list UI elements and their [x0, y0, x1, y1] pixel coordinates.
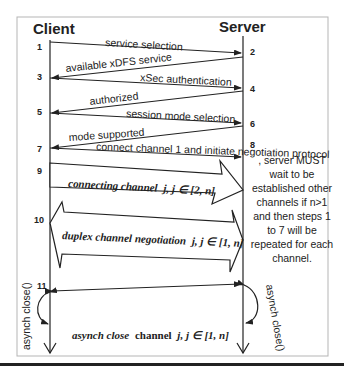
step-11: 11: [37, 281, 47, 291]
step-9: 9: [37, 166, 42, 176]
step-6: 6: [250, 119, 255, 129]
client-close-curve: [38, 292, 50, 324]
note-text: , server MUST wait to be established oth…: [251, 154, 333, 264]
svg-text:to 7 will be: to 7 will be: [267, 224, 317, 236]
message-label-3: xSec authentication: [140, 71, 232, 88]
step-5: 5: [37, 107, 42, 117]
message-label-5: session mode selection: [126, 107, 236, 125]
step-3: 3: [37, 72, 42, 82]
svg-text:and then steps 1: and then steps 1: [253, 210, 331, 222]
svg-text:wait to be: wait to be: [269, 168, 315, 180]
svg-text:established other: established other: [252, 182, 332, 194]
close-arrow: [52, 284, 241, 291]
step-2: 2: [250, 47, 255, 57]
participant-client: Client: [33, 20, 75, 37]
step-7: 7: [37, 144, 42, 154]
server-close-curve: [244, 285, 258, 323]
svg-text:channel.: channel.: [272, 252, 312, 264]
step-1: 1: [37, 42, 42, 52]
server-close-label: asynch close(): [264, 283, 288, 352]
step-4: 4: [250, 84, 255, 94]
client-close-label: asynch close(): [20, 282, 32, 350]
sequence-diagram: Client Server 1 2 3 4 5 6 7 8 9 10 11 se…: [0, 0, 344, 379]
step-10: 10: [34, 215, 44, 225]
participant-server: Server: [219, 18, 266, 35]
asynch-close-channel-label: asynch close channel j, j ∈ [1, n]: [72, 329, 229, 341]
svg-text:, server MUST: , server MUST: [258, 154, 326, 166]
message-label-1: service selection: [105, 36, 183, 52]
bottom-rule: [0, 363, 344, 366]
svg-text:repeated for each: repeated for each: [251, 238, 333, 250]
svg-text:channels if n>1: channels if n>1: [257, 196, 328, 208]
